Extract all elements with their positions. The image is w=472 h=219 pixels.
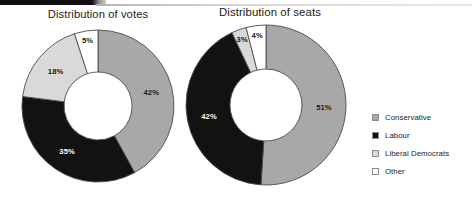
legend-label-liberal-democrats: Liberal Democrats (385, 149, 449, 158)
chart-panel-seats: Distribution of seats 51%42%3%4% (180, 6, 360, 216)
legend-swatch-liberal-democrats-icon (372, 150, 379, 157)
donut-votes-svg: 42%35%18%5% (20, 28, 176, 184)
pie-slice-label: 3% (237, 35, 248, 44)
legend-item-conservative: Conservative (372, 110, 470, 124)
pie-slice-label: 4% (252, 31, 263, 40)
legend-item-other: Other (372, 164, 470, 178)
top-rule-dark (0, 0, 96, 5)
legend-item-liberal-democrats: Liberal Democrats (372, 146, 470, 160)
pie-slice-label: 42% (144, 88, 160, 97)
chart-title-seats: Distribution of seats (180, 6, 360, 18)
donut-chart-votes: 42%35%18%5% (20, 28, 176, 184)
chart-title-votes: Distribution of votes (8, 8, 188, 20)
legend-swatch-conservative-icon (372, 114, 379, 121)
pie-slice-label: 18% (48, 67, 64, 76)
donut-seats-svg: 51%42%3%4% (185, 24, 347, 186)
pie-slice-label: 51% (316, 103, 332, 112)
legend-label-other: Other (385, 167, 405, 176)
pie-slice-label: 5% (82, 36, 93, 45)
chart-panel-votes: Distribution of votes 42%35%18%5% (8, 8, 188, 216)
legend-item-labour: Labour (372, 128, 470, 142)
pie-slice-label: 42% (201, 112, 217, 121)
chart-legend: Conservative Labour Liberal Democrats Ot… (372, 110, 470, 182)
pie-slice-label: 35% (59, 147, 75, 156)
legend-swatch-other-icon (372, 168, 379, 175)
legend-label-conservative: Conservative (385, 113, 431, 122)
legend-label-labour: Labour (385, 131, 410, 140)
legend-swatch-labour-icon (372, 132, 379, 139)
donut-chart-seats: 51%42%3%4% (185, 24, 347, 186)
pie-slice (261, 25, 346, 185)
